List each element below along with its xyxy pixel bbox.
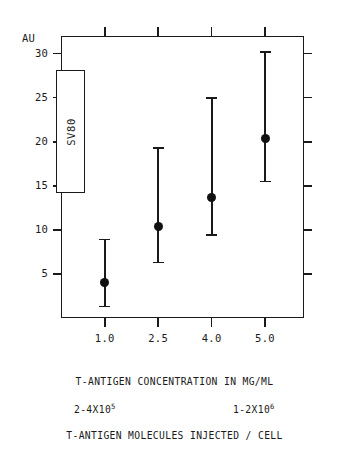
- x-axis-tick-label: 5.0: [240, 333, 290, 344]
- bottom-caption: T-ANTIGEN MOLECULES INJECTED / CELL: [0, 430, 349, 441]
- legend-box-sv80: SV80: [56, 70, 85, 193]
- error-bar-cap-upper: [260, 51, 271, 53]
- error-bar-cap-lower: [260, 181, 271, 183]
- plot-area-frame: [61, 36, 304, 318]
- x-axis-tick-bottom: [264, 318, 266, 327]
- x-axis-tick-label: 1.0: [80, 333, 130, 344]
- scatter-chart-figure: AU 30252015105 1.02.54.05.0 SV80 T-ANTIG…: [0, 0, 349, 459]
- x-axis-tick-label: 2.5: [133, 333, 183, 344]
- y-axis-tick-label: 15: [8, 180, 48, 191]
- x-axis-tick-top: [264, 27, 266, 36]
- y-axis-tick-label: 25: [8, 92, 48, 103]
- y-axis-tick-right: [304, 185, 312, 187]
- error-bar-line: [104, 240, 106, 307]
- y-axis-tick-right: [304, 273, 312, 275]
- data-point-marker: [154, 222, 163, 231]
- y-axis-tick-right: [304, 97, 312, 99]
- x-axis-tick-top: [104, 27, 106, 36]
- annotation-molecules-right: 1-2X106: [233, 404, 275, 415]
- y-axis-tick-label: 5: [8, 268, 48, 279]
- annotation-molecules-left: 2-4X105: [74, 404, 116, 415]
- error-bar-cap-upper: [153, 147, 164, 149]
- error-bar-line: [157, 148, 159, 263]
- y-axis-tick-right: [304, 141, 312, 143]
- x-axis-tick-bottom: [157, 318, 159, 327]
- annotation-left-exponent: 5: [111, 402, 116, 411]
- annotation-right-exponent: 6: [270, 402, 275, 411]
- data-point-marker: [261, 134, 270, 143]
- y-axis-tick-left: [53, 273, 61, 275]
- error-bar-cap-lower: [153, 262, 164, 264]
- legend-label-sv80: SV80: [65, 118, 76, 146]
- y-axis-tick-label: 30: [8, 48, 48, 59]
- error-bar-line: [211, 98, 213, 235]
- x-axis-tick-top: [211, 27, 213, 36]
- y-axis-tick-left: [53, 53, 61, 55]
- x-axis-tick-top: [157, 27, 159, 36]
- x-axis-title: T-ANTIGEN CONCENTRATION IN MG/ML: [0, 376, 349, 387]
- y-axis-unit-label: AU: [22, 33, 35, 44]
- y-axis-tick-label: 20: [8, 136, 48, 147]
- x-axis-tick-label: 4.0: [187, 333, 237, 344]
- y-axis-tick-label: 10: [8, 224, 48, 235]
- x-axis-tick-bottom: [104, 318, 106, 327]
- data-point-marker: [207, 193, 216, 202]
- y-axis-tick-left: [53, 229, 61, 231]
- error-bar-cap-lower: [206, 234, 217, 236]
- x-axis-tick-bottom: [211, 318, 213, 327]
- y-axis-tick-right: [304, 229, 312, 231]
- error-bar-cap-upper: [206, 97, 217, 99]
- error-bar-cap-upper: [99, 239, 110, 241]
- error-bar-cap-lower: [99, 306, 110, 308]
- error-bar-line: [264, 52, 266, 182]
- y-axis-tick-right: [304, 53, 312, 55]
- annotation-left-base: 2-4X10: [74, 404, 111, 415]
- annotation-right-base: 1-2X10: [233, 404, 270, 415]
